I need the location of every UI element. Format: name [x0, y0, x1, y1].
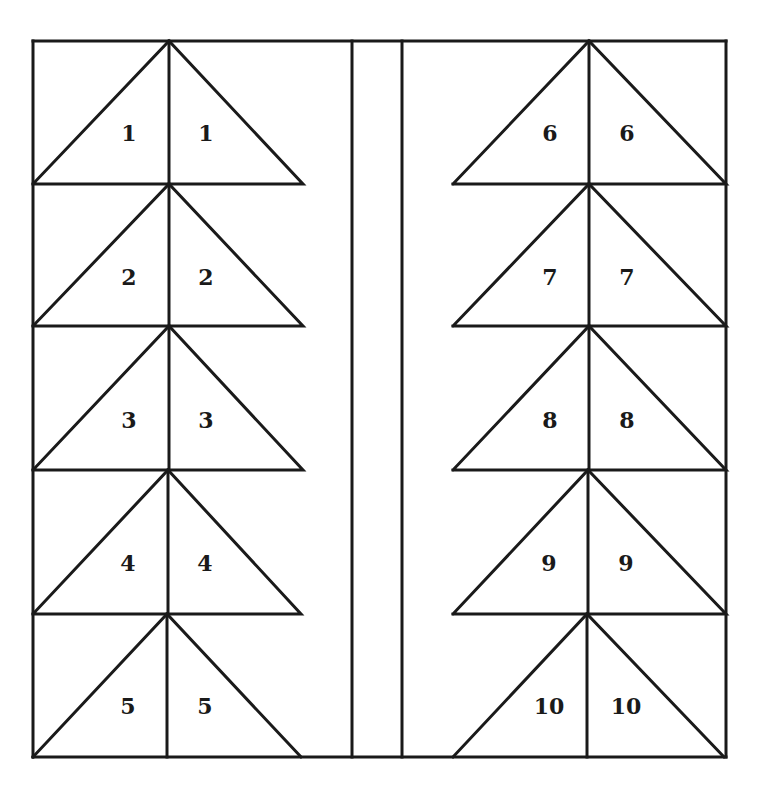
- triangle-label: 10: [534, 693, 565, 719]
- triangle-label: 4: [197, 550, 212, 576]
- triangle-label: 7: [542, 264, 557, 290]
- triangle-label: 7: [619, 264, 634, 290]
- triangle-row-6: 6 6: [453, 41, 726, 184]
- triangle-label: 6: [542, 120, 557, 146]
- triangle-label: 6: [619, 120, 634, 146]
- triangle-label: 1: [121, 120, 136, 146]
- triangle-row-3: 3 3: [33, 326, 303, 470]
- triangle-label: 3: [121, 407, 136, 433]
- triangle-row-4: 4 4: [33, 470, 301, 614]
- right-column: 6 6 7 7 8 8 9 9 10 10: [453, 41, 726, 757]
- triangle-label: 4: [120, 550, 135, 576]
- triangle-label: 9: [618, 550, 633, 576]
- triangle-row-2: 2 2: [33, 184, 303, 326]
- triangle-row-5: 5 5: [33, 614, 301, 757]
- triangle-label: 5: [197, 693, 212, 719]
- triangle-row-1: 1 1: [33, 41, 303, 184]
- triangle-label: 8: [542, 407, 557, 433]
- triangle-row-10: 10 10: [453, 614, 724, 757]
- triangle-row-8: 8 8: [453, 326, 726, 470]
- triangle-label: 2: [121, 264, 136, 290]
- triangle-label: 2: [198, 264, 213, 290]
- triangle-row-7: 7 7: [453, 184, 726, 326]
- triangle-label: 10: [611, 693, 642, 719]
- triangle-label: 9: [541, 550, 556, 576]
- triangle-row-9: 9 9: [453, 470, 726, 614]
- triangle-label: 5: [120, 693, 135, 719]
- triangle-label: 3: [198, 407, 213, 433]
- triangle-label: 8: [619, 407, 634, 433]
- triangle-pattern-diagram: 1 1 2 2 3 3 4 4 5 5: [0, 0, 758, 797]
- triangle-label: 1: [198, 120, 213, 146]
- left-column: 1 1 2 2 3 3 4 4 5 5: [33, 41, 303, 757]
